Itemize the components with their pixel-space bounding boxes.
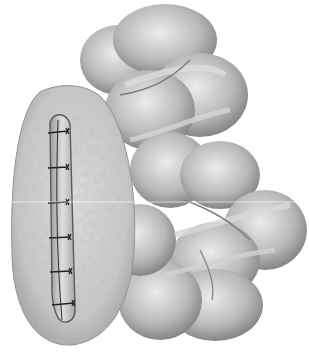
- colon-omental-patch-illustration: [0, 0, 309, 361]
- sutured-incision: [48, 115, 75, 322]
